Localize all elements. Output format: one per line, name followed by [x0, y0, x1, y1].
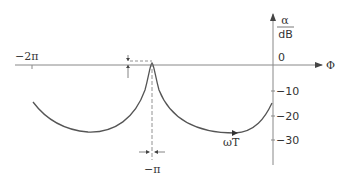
x-axis-label-phi: Φ: [326, 59, 335, 72]
y-axis: [271, 14, 275, 165]
x-axis: [15, 65, 322, 69]
x-tick-label-minus-pi: −π: [144, 163, 160, 176]
y-axis-label-db: dB: [278, 28, 293, 41]
y-tick-label-minus-10: −10: [276, 85, 299, 98]
y-tick-label-minus-30: −30: [276, 134, 299, 147]
attenuation-curve: [33, 63, 272, 133]
curve-label-omega-t: ωT: [223, 136, 240, 149]
y-axis-label-alpha: α: [281, 14, 289, 27]
y-tick-label-0: 0: [278, 51, 285, 64]
attenuation-diagram: −2π −π α dB Φ 0 −10 −20 −30 ωT: [0, 0, 349, 187]
y-tick-label-minus-20: −20: [276, 110, 299, 123]
minus-pi-marker: [139, 63, 165, 160]
x-tick-label-minus-2pi: −2π: [15, 50, 38, 63]
